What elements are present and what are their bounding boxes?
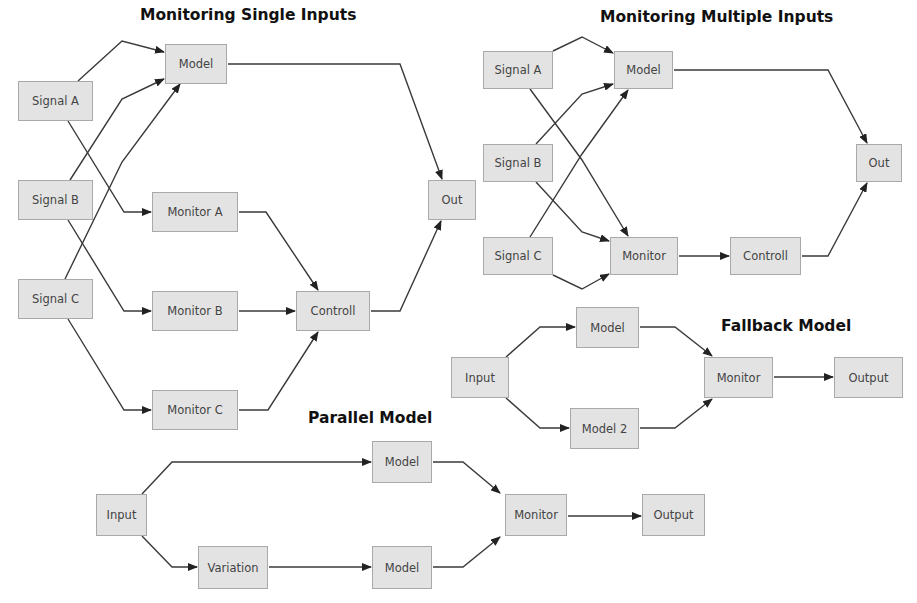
node-pm-model-bottom: Model (372, 546, 432, 589)
node-pm-monitor: Monitor (505, 494, 567, 536)
node-mm-out: Out (856, 144, 902, 182)
edge-pm-model-top-monitor (433, 462, 500, 493)
title-parallel: Parallel Model (308, 409, 432, 427)
node-mm-signal-b: Signal B (483, 144, 553, 182)
edge-model-out (228, 64, 442, 179)
edge-signal-c-monitor-c (68, 319, 151, 410)
edge-mm-model-out (674, 70, 867, 143)
node-fb-model: Model (576, 307, 639, 348)
node-mm-signal-a: Signal A (483, 51, 553, 89)
edge-pm-model-bottom-monitor (433, 537, 500, 567)
title-multiple-inputs: Monitoring Multiple Inputs (600, 8, 833, 26)
edge-fb-model-monitor (640, 327, 712, 356)
edge-pm-input-model (142, 462, 371, 494)
node-model: Model (165, 44, 227, 84)
node-controll: Controll (296, 291, 370, 331)
node-pm-model-top: Model (372, 441, 432, 483)
node-fb-output: Output (834, 357, 903, 398)
title-fallback: Fallback Model (721, 317, 851, 335)
title-single-inputs: Monitoring Single Inputs (140, 6, 356, 24)
edge-fb-input-model-2 (506, 398, 569, 428)
edge-fb-input-model (506, 327, 575, 357)
edge-mm-controll-out (802, 183, 867, 256)
node-fb-input: Input (451, 357, 509, 398)
edge-mm-signal-c-monitor (553, 274, 609, 289)
node-monitor-a: Monitor A (152, 192, 238, 232)
node-monitor-c: Monitor C (152, 390, 238, 430)
edge-controll-out (371, 221, 441, 311)
node-pm-input: Input (96, 494, 147, 536)
node-pm-variation: Variation (198, 546, 268, 589)
edge-monitor-a-controll (239, 212, 318, 290)
edge-monitor-c-controll (239, 332, 318, 410)
node-monitor-b: Monitor B (152, 291, 238, 331)
node-mm-monitor: Monitor (610, 237, 678, 275)
node-signal-c: Signal C (18, 279, 93, 319)
edge-mm-signal-a-model (553, 37, 613, 53)
node-mm-controll: Controll (730, 237, 801, 275)
node-signal-a: Signal A (18, 81, 93, 121)
node-fb-model-2: Model 2 (570, 408, 639, 449)
node-signal-b: Signal B (18, 180, 93, 220)
node-pm-output: Output (642, 494, 705, 536)
edge-mm-signal-b-monitor (536, 182, 609, 241)
node-out: Out (428, 180, 476, 220)
edge-pm-input-variation (142, 536, 197, 567)
edge-fb-model-2-monitor (640, 399, 712, 428)
node-fb-monitor: Monitor (704, 357, 773, 398)
node-mm-model: Model (614, 51, 673, 89)
edge-signal-a-model (78, 41, 164, 81)
node-mm-signal-c: Signal C (483, 237, 553, 275)
